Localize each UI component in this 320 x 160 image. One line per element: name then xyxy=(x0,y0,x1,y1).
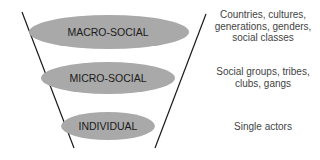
description-line: Single actors xyxy=(208,121,318,133)
macro-social-description: Countries, cultures, generations, gender… xyxy=(208,9,318,44)
macro-social-label: MACRO-SOCIAL xyxy=(67,26,148,38)
micro-social-label: MICRO-SOCIAL xyxy=(69,72,146,84)
individual-description: Single actors xyxy=(208,121,318,133)
description-line: generations, genders, xyxy=(208,21,318,33)
description-line: Social groups, tribes, xyxy=(208,66,318,78)
description-line: clubs, gangs xyxy=(208,78,318,90)
description-line: social classes xyxy=(208,32,318,44)
individual-label: INDIVIDUAL xyxy=(79,120,138,132)
micro-social-description: Social groups, tribes, clubs, gangs xyxy=(208,66,318,89)
description-line: Countries, cultures, xyxy=(208,9,318,21)
